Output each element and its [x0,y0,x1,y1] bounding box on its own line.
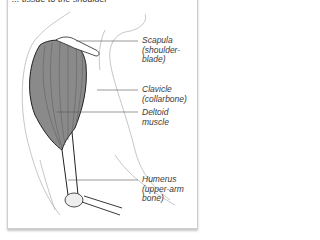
label-scapula: Scapula (shoulder- blade) [142,36,180,65]
label-scapula-line3: blade) [142,55,180,65]
label-deltoid: Deltoid muscle [142,108,169,127]
label-humerus: Humerus (upper-arm bone) [142,175,184,204]
label-clavicle: Clavicle (collarbone) [142,85,187,104]
label-deltoid-line2: muscle [142,118,169,128]
label-humerus-line3: bone) [142,194,184,204]
label-clavicle-line2: (collarbone) [142,95,187,105]
